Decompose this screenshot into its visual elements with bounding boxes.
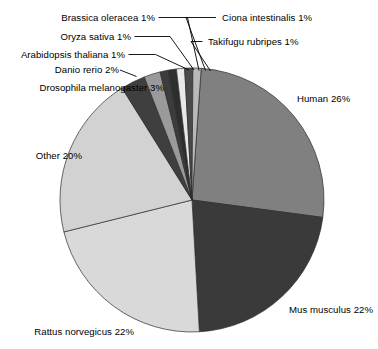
leader-line-arabidopsis-thaliana [129,55,190,71]
pie-label-human: Human 26% [297,93,350,104]
pie-label-oryza-sativa: Oryza sativa 1% [0,31,131,42]
pie-label-other: Other 20% [0,150,82,161]
pie-label-arabidopsis-thaliana: Arabidopsis thaliana 1% [0,49,125,60]
pie-slice-human [192,68,324,217]
pie-label-ciona-intestinalis: Ciona intestinalis 1% [222,12,312,23]
pie-label-rattus-norvegicus: Rattus norvegicus 22% [0,326,134,337]
pie-label-danio-rerio: Danio rerio 2% [0,64,119,75]
pie-label-drosophila-melanogaster: Drosophila melanogaster 3% [0,82,164,93]
pie-label-brassica-oleracea: Brassica oleracea 1% [0,12,155,23]
leader-line-danio-rerio [120,70,137,77]
pie-label-mus-musculus: Mus musculus 22% [289,304,373,315]
leader-line-oryza-sativa [135,37,195,71]
pie-slices [60,68,324,332]
pie-chart-figure: Brassica oleracea 1% Oryza sativa 1% Ara… [0,0,378,349]
leader-lines [120,18,216,77]
pie-label-takifugu-rubripes: Takifugu rubripes 1% [208,36,299,47]
